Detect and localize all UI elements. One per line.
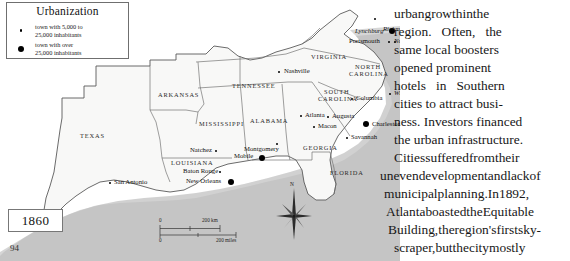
text-line-10: unevendevelopmentandlackof	[380, 168, 566, 184]
text-word: Cities	[394, 150, 425, 165]
city-label-augusta: Augusta	[332, 113, 354, 120]
text-line: ness. Investors financed	[394, 114, 566, 130]
state-label-alabama: ALABAMA	[250, 118, 288, 124]
city-label-portsmouth: Portsmouth	[349, 38, 380, 45]
text-word: opened prominent	[394, 60, 491, 75]
state-label-texas: TEXAS	[80, 133, 105, 139]
map-date-box: 1860	[8, 209, 63, 232]
state-label-arkansas: ARKANSAS	[158, 92, 199, 98]
text-line-1: urbangrowthinthe	[394, 6, 566, 22]
city-label-columbia: Columbia	[356, 95, 382, 102]
text-word: uneven	[380, 168, 419, 183]
text-line-4: opened prominent	[394, 60, 566, 76]
map-legend: Urbanization town with 5,000 to 25,000 i…	[6, 2, 129, 59]
city-label-baton-rouge: Baton Rouge	[183, 168, 218, 175]
text-word: the	[453, 240, 469, 255]
text-line-6: cities to attract busi-	[394, 96, 566, 112]
legend-entry-small-town: town with 5,000 to 25,000 inhabitants	[7, 23, 83, 38]
text-word: 1892,	[499, 186, 529, 201]
page-number: 94	[10, 243, 19, 253]
scale-km-start: 0	[159, 217, 162, 223]
legend-small-town-line1: town with 5,000 to	[35, 23, 83, 31]
city-label-natchez: Natchez	[190, 147, 212, 154]
state-label-mississippi: MISSISSIPPI	[199, 121, 244, 127]
legend-large-dot-icon	[7, 46, 35, 52]
text-word: the urban infrastructure.	[394, 132, 523, 147]
text-line-2: region.Often,the	[394, 24, 566, 40]
text-word: In	[488, 186, 499, 201]
text-word: urban	[394, 6, 425, 21]
text-line-3: same local boosters	[394, 42, 566, 58]
text-word: their	[495, 150, 520, 165]
map-figure: TEXAS ARKANSAS MISSISSIPPI LOUISIANA ALA…	[0, 0, 400, 261]
text-word: city	[469, 240, 489, 255]
compass-north-label: N	[290, 181, 294, 187]
city-label-lynchburg: Lynchburg	[355, 28, 384, 35]
text-word: but	[435, 240, 452, 255]
text-word: cities to attract busi-	[394, 96, 503, 111]
city-label-new-orleans: New Orleans	[186, 178, 221, 185]
scale-bar: 0 200 km 0 200 miles	[158, 216, 258, 246]
text-word: the	[473, 6, 489, 21]
text-word: sky-	[518, 222, 541, 237]
text-line: Citiessufferedfromtheir	[394, 150, 566, 166]
city-label-atlanta: Atlanta	[305, 112, 325, 119]
body-text-column: urbangrowthinthe region.Often,the same l…	[394, 0, 570, 261]
city-label-montgomery: Montgomery	[244, 146, 279, 153]
text-line-5: hotelsinSouthern	[394, 78, 566, 94]
state-label-virginia: VIRGINIA	[311, 54, 347, 60]
legend-large-town-line1: town with over	[35, 41, 82, 49]
legend-title: Urbanization	[7, 5, 128, 17]
text-word: Equitable	[483, 204, 534, 219]
text-word: scraper,	[394, 240, 435, 255]
text-line-7: ness. Investors financed	[394, 114, 566, 130]
legend-small-town-line2: 25,000 inhabitants	[35, 31, 83, 39]
text-word: Southern	[456, 78, 504, 93]
text-word: the	[485, 24, 501, 39]
text-word: lack	[507, 168, 529, 183]
state-label-florida: FLORIDA	[330, 170, 364, 176]
text-line-12: AtlantaboastedtheEquitable	[386, 204, 566, 220]
state-label-georgia: GEORGIA	[303, 145, 338, 151]
text-word: ness. Investors financed	[394, 114, 522, 129]
text-line: hotelsinSouthern	[394, 78, 566, 94]
text-word: municipal	[384, 186, 438, 201]
legend-entry-large-town: town with over 25,000 inhabitants	[7, 41, 82, 56]
scale-mi-start: 0	[159, 237, 162, 243]
text-line: cities to attract busi-	[394, 96, 566, 112]
scale-km-end: 200 km	[202, 217, 218, 223]
text-word: the	[466, 204, 482, 219]
compass-rose: N	[272, 182, 316, 244]
text-line: urbangrowthinthe	[394, 6, 566, 22]
text-line: opened prominent	[394, 60, 566, 76]
text-word: same local boosters	[394, 42, 499, 57]
text-word: from	[469, 150, 495, 165]
legend-small-dot-icon	[7, 29, 35, 32]
text-line: municipalplanning.In1892,	[384, 186, 556, 202]
text-line-9: Citiessufferedfromtheir	[394, 150, 566, 166]
city-label-savannah: Savannah	[351, 134, 377, 141]
text-line-14: scraper,butthecitymostly	[394, 240, 566, 256]
text-line-8: the urban infrastructure.	[394, 132, 566, 148]
text-line: region.Often,the	[394, 24, 566, 40]
text-word: mostly	[489, 240, 525, 255]
scale-mi-end: 200 miles	[216, 237, 236, 243]
text-word: in	[462, 6, 472, 21]
state-label-north-carolina: CAROLINA	[349, 71, 389, 77]
text-line-13: Building,theregion'sfirstsky-	[388, 222, 566, 238]
legend-large-town-line2: 25,000 inhabitants	[35, 49, 82, 57]
text-line-11: municipalplanning.In1892,	[384, 186, 566, 202]
text-line: AtlantaboastedtheEquitable	[386, 204, 558, 220]
text-line: unevendevelopmentandlackof	[380, 168, 552, 184]
text-word: planning.	[438, 186, 488, 201]
city-label-mobile: Mobile	[234, 153, 253, 160]
state-label-tennessee: TENNESSEE	[232, 83, 276, 89]
text-word: Building,	[388, 222, 438, 237]
text-line: Building,theregion'sfirstsky-	[388, 222, 560, 238]
text-word: of	[530, 168, 541, 183]
text-line: the urban infrastructure.	[394, 132, 566, 148]
text-word: development	[419, 168, 488, 183]
text-word: growth	[425, 6, 463, 21]
city-label-nashville: Nashville	[284, 68, 310, 75]
compass-rose-svg	[272, 182, 316, 244]
